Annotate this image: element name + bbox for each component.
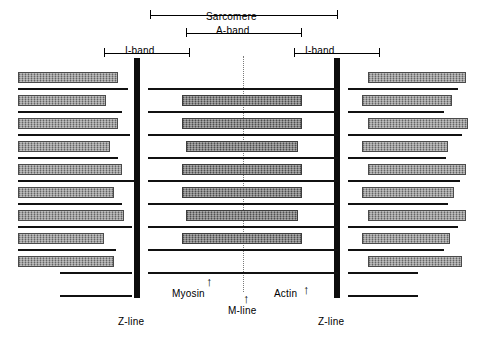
actin-filament [18,118,118,129]
actin-thin-filament [18,180,134,182]
actin-filament [18,210,124,221]
actin-thin-filament [348,203,448,205]
actin-thin-filament [348,157,446,159]
actin-label: Actin [274,288,297,299]
actin-filament [18,187,114,198]
actin-thin-filament [148,272,338,274]
actin-filament [18,141,110,152]
actin-thin-filament [148,203,338,205]
myosin-filament [182,118,302,129]
actin-thin-filament [18,111,122,113]
actin-thin-filament [148,226,338,228]
myosin-filament [182,233,302,244]
actin-filament [362,95,452,106]
myosin-filament [182,187,302,198]
actin-thin-filament [148,88,338,90]
i-band-right-label: I-band [305,45,335,56]
actin-filament [18,72,118,83]
actin-thin-filament [148,249,338,251]
actin-thin-filament [348,249,444,251]
z-line-right [334,58,340,298]
myosin-filament [182,164,302,175]
a-band-label: A-band [216,25,249,36]
actin-filament [368,72,466,83]
actin-thin-filament [18,88,128,90]
actin-thin-filament [18,134,130,136]
actin-thin-filament [148,111,338,113]
actin-thin-filament [348,295,418,297]
actin-thin-filament [348,134,462,136]
actin-filament [18,256,114,267]
sarcomere-diagram: Sarcomere A-band I-band I-band Z-line Z-… [0,0,483,344]
actin-filament [362,141,448,152]
actin-thin-filament [148,157,338,159]
actin-filament [18,95,106,106]
actin-thin-filament [148,134,338,136]
actin-thin-filament [18,249,116,251]
z-line-right-label: Z-line [318,316,344,327]
actin-thin-filament [60,272,132,274]
myosin-arrow: ↑ [206,275,213,288]
actin-thin-filament [348,226,458,228]
actin-thin-filament [18,203,122,205]
actin-filament [368,164,466,175]
i-band-left-label: I-band [125,45,155,56]
actin-filament [362,187,454,198]
actin-thin-filament [18,157,118,159]
actin-thin-filament [18,226,132,228]
myosin-filament [182,95,302,106]
m-line-label: M-line [228,305,256,316]
actin-thin-filament [148,180,338,182]
actin-filament [368,256,462,267]
z-line-left [134,58,140,298]
actin-thin-filament [60,295,132,297]
actin-thin-filament [348,88,458,90]
myosin-filament [186,210,298,221]
myosin-filament [186,141,298,152]
actin-thin-filament [348,111,444,113]
actin-thin-filament [348,272,418,274]
actin-arrow: ↑ [303,283,310,296]
m-line-arrow: ↑ [243,292,250,305]
sarcomere-label: Sarcomere [206,11,257,22]
actin-thin-filament [348,180,460,182]
actin-filament [362,233,450,244]
myosin-label: Myosin [172,288,205,299]
z-line-left-label: Z-line [118,316,144,327]
actin-filament [18,164,122,175]
actin-filament [368,118,468,129]
actin-filament [368,210,466,221]
actin-filament [18,233,104,244]
